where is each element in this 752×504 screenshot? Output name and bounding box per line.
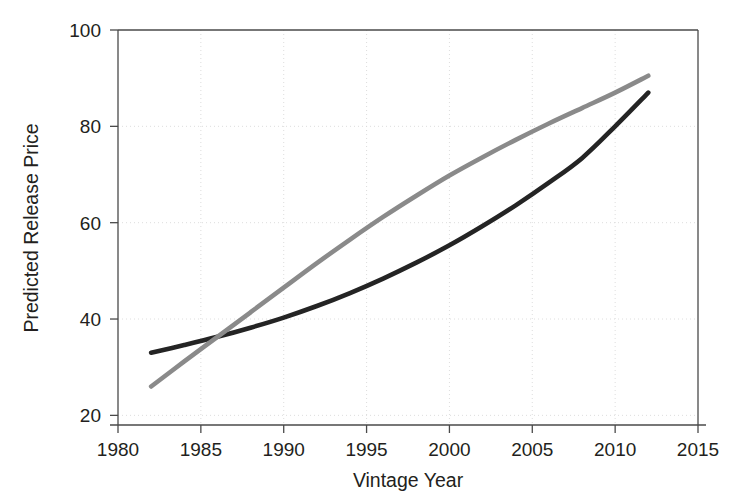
- x-tick-label: 1985: [180, 439, 222, 460]
- y-axis-title: Predicted Release Price: [20, 123, 42, 332]
- y-tick-label: 100: [69, 20, 101, 41]
- y-tick-label: 60: [80, 213, 101, 234]
- x-tick-label: 2015: [677, 439, 719, 460]
- x-tick-label: 1980: [97, 439, 139, 460]
- chart-background: [0, 0, 752, 504]
- x-tick-label: 2000: [428, 439, 470, 460]
- y-tick-label: 20: [80, 405, 101, 426]
- x-tick-label: 1995: [345, 439, 387, 460]
- y-tick-label: 40: [80, 309, 101, 330]
- line-chart: 20406080100 1980198519901995200020052010…: [0, 0, 752, 504]
- x-tick-label: 2005: [511, 439, 553, 460]
- x-tick-label: 1990: [263, 439, 305, 460]
- chart-figure: 20406080100 1980198519901995200020052010…: [0, 0, 752, 504]
- y-tick-label: 80: [80, 116, 101, 137]
- x-tick-label: 2010: [594, 439, 636, 460]
- x-axis-title: Vintage Year: [353, 469, 464, 491]
